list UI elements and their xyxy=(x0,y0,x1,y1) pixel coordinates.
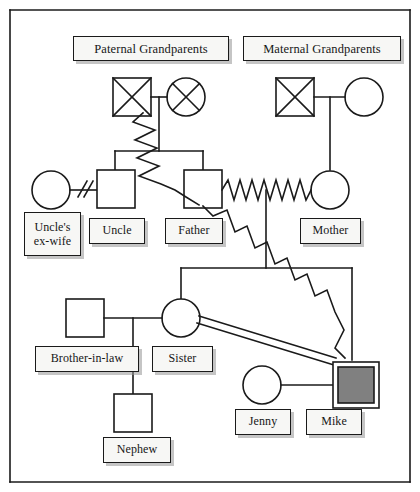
label-paternal-grandparents: Paternal Grandparents xyxy=(73,36,229,61)
sister-mike-close-line xyxy=(197,316,336,365)
uncle-symbol xyxy=(97,170,135,208)
label-uncles-ex-wife: Uncle's ex-wife xyxy=(24,212,81,256)
nephew-symbol xyxy=(114,394,152,432)
label-uncle: Uncle xyxy=(89,218,145,244)
sister-symbol xyxy=(162,299,200,337)
maternal-grandmother-symbol xyxy=(345,78,383,116)
mother-symbol xyxy=(311,171,349,209)
maternal-grandparents-union-line xyxy=(314,97,345,170)
parents-children-descent xyxy=(181,190,352,360)
label-sister: Sister xyxy=(152,346,213,372)
jenny-symbol xyxy=(243,366,281,404)
father-symbol xyxy=(184,170,222,208)
genogram-diagram: Paternal Grandparents Maternal Grandpare… xyxy=(0,0,420,492)
label-mike: Mike xyxy=(306,409,362,435)
maternal-grandfather-symbol xyxy=(276,78,314,116)
paternal-grandfather-symbol xyxy=(113,78,151,116)
label-jenny: Jenny xyxy=(235,409,291,435)
label-maternal-grandparents: Maternal Grandparents xyxy=(243,36,401,61)
brother-in-law-symbol xyxy=(66,299,104,337)
uncles-ex-wife-symbol xyxy=(32,171,70,209)
mike-symbol xyxy=(333,362,379,408)
label-nephew: Nephew xyxy=(103,437,171,463)
label-father: Father xyxy=(165,218,223,244)
paternal-grandmother-symbol xyxy=(167,78,205,116)
label-mother: Mother xyxy=(300,218,361,244)
divorce-line-uncle xyxy=(70,181,97,197)
label-brother-in-law: Brother-in-law xyxy=(35,346,139,372)
